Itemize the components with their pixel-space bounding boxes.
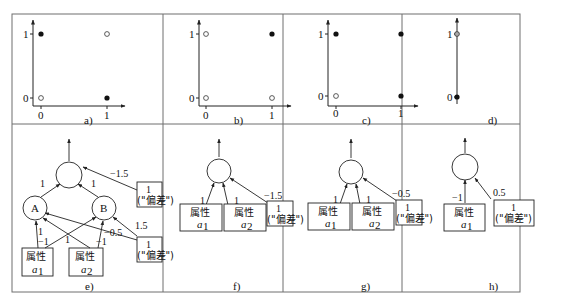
svg-text:1: 1 [467, 220, 473, 232]
node-a-label: A [31, 202, 39, 214]
svg-text:1: 1 [331, 219, 337, 231]
caption-a: a) [84, 114, 93, 127]
weight-bias: 0.5 [493, 187, 506, 198]
output-node [339, 160, 363, 184]
input-box-a2: 属性 a 2 [352, 203, 394, 231]
y-tick-1: 1 [189, 28, 195, 40]
input-box-a2: 属性 a 2 [69, 248, 103, 277]
y-tick-0: 0 [189, 92, 195, 104]
svg-text:1: 1 [146, 184, 151, 195]
weight-a2-a: 1 [65, 234, 70, 245]
panel-f-and-perceptron: 1 1 −1.5 属性 a 1 属性 a 2 1 ("偏差") f) [180, 139, 304, 293]
point-hollow [204, 32, 209, 37]
point-filled [454, 94, 459, 99]
y-tick-1: 1 [447, 28, 453, 40]
weight-bias1-out: −1.5 [110, 168, 128, 179]
svg-text:("偏差"): ("偏差") [396, 212, 433, 224]
caption-g: g) [361, 280, 371, 293]
svg-text:1: 1 [511, 202, 516, 213]
caption-c: c) [362, 114, 371, 127]
node-b-label: B [100, 202, 107, 214]
point-filled [38, 31, 43, 36]
panel-c-or-plot: 1 0 0 1 c) [318, 20, 418, 127]
svg-text:2: 2 [375, 219, 381, 231]
y-tick-0: 0 [23, 92, 29, 104]
point-filled [398, 31, 403, 36]
caption-e: e) [85, 280, 94, 293]
input-box-a1: 属性 a 1 [444, 204, 485, 232]
point-filled [398, 93, 403, 98]
svg-text:2: 2 [247, 220, 253, 232]
y-tick-0: 0 [318, 90, 324, 102]
x-tick-0: 0 [333, 107, 339, 119]
svg-text:("偏差"): ("偏差") [137, 249, 174, 261]
caption-d: d) [488, 114, 498, 127]
svg-text:1: 1 [203, 220, 209, 232]
point-hollow [204, 96, 209, 101]
svg-text:2: 2 [87, 265, 93, 277]
svg-text:属性: 属性 [318, 205, 338, 217]
bias-box: 1 ("偏差") [494, 200, 534, 226]
svg-text:属性: 属性 [362, 205, 382, 217]
svg-text:1: 1 [38, 265, 44, 277]
point-filled [104, 95, 109, 100]
figure: 1 0 0 1 a) 1 0 0 1 b) 1 0 0 1 [0, 0, 568, 299]
svg-text:属性: 属性 [454, 206, 474, 218]
caption-h: h) [489, 280, 499, 293]
point-hollow [105, 32, 110, 37]
panel-d-not-plot: 1 0 d) [447, 18, 498, 127]
svg-text:属性: 属性 [75, 250, 95, 262]
svg-text:1: 1 [276, 203, 281, 214]
caption-b: b) [234, 114, 244, 127]
svg-text:("偏差"): ("偏差") [137, 194, 174, 206]
input-box-a1: 属性 a 1 [22, 248, 53, 277]
point-filled [269, 31, 274, 36]
bias-box-2: 1 ("偏差") [137, 237, 174, 262]
panel-g-or-perceptron: 1 1 −0.5 属性 a 1 属性 a 2 1 ("偏差") g) [308, 139, 433, 293]
svg-text:1: 1 [405, 202, 410, 213]
weight-bias: −0.5 [392, 188, 410, 199]
panel-b-and-plot: 1 0 0 1 b) [189, 20, 291, 127]
svg-text:("偏差"): ("偏差") [267, 213, 304, 225]
output-node [452, 154, 478, 180]
y-tick-1: 1 [23, 28, 29, 40]
svg-text:属性: 属性 [190, 206, 210, 218]
x-tick-1: 1 [398, 107, 404, 119]
x-tick-1: 1 [269, 109, 275, 121]
output-node [207, 159, 231, 183]
point-hollow [455, 32, 460, 37]
point-filled [333, 31, 338, 36]
input-box-a1: 属性 a 1 [180, 204, 222, 232]
svg-text:属性: 属性 [26, 250, 46, 262]
svg-text:1: 1 [146, 239, 151, 250]
weight-b-out: 1 [91, 178, 96, 189]
bias-box: 1 ("偏差") [267, 201, 304, 226]
bias-box: 1 ("偏差") [396, 200, 433, 225]
caption-f: f) [233, 280, 241, 293]
weight-a1-b: −1 [38, 236, 49, 247]
svg-text:属性: 属性 [234, 206, 254, 218]
x-tick-1: 1 [104, 109, 110, 121]
panel-e-multilayer-network: A B 1 1 −1.5 1 ("偏差") 属性 a 1 属性 a 2 [22, 139, 174, 293]
x-tick-0: 0 [203, 109, 209, 121]
panel-a-xor-plot: 1 0 0 1 a) [23, 20, 125, 127]
point-hollow [334, 94, 339, 99]
weight-bias2-b: 1.5 [135, 220, 148, 231]
weight-a-out: 1 [40, 178, 45, 189]
input-box-a1: 属性 a 1 [308, 203, 350, 231]
y-tick-0: 0 [447, 91, 453, 103]
weight-bias: −1.5 [264, 190, 282, 201]
x-tick-0: 0 [38, 109, 44, 121]
point-hollow [39, 96, 44, 101]
svg-text:("偏差"): ("偏差") [495, 212, 532, 224]
point-hollow [270, 96, 275, 101]
input-box-a2: 属性 a 2 [224, 204, 266, 232]
weight-bias2-a: −0.5 [104, 227, 122, 238]
bias-box-1: 1 ("偏差") [137, 182, 174, 207]
y-tick-1: 1 [318, 28, 324, 40]
weight-a1: −1 [452, 192, 463, 203]
